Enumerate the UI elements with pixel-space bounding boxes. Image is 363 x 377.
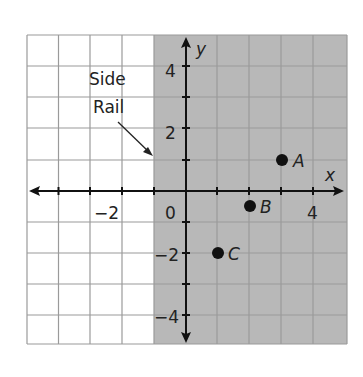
coordinate-plane: −2 0 4 4 2 −2 −4 y x A B C Side Rail <box>0 0 363 377</box>
y-tick-2: 2 <box>165 123 176 143</box>
point-a <box>276 154 288 166</box>
point-b-label: B <box>260 197 272 217</box>
arrow-icon <box>118 122 153 156</box>
y-axis-label: y <box>195 39 207 59</box>
y-tick-4: 4 <box>165 61 176 81</box>
x-axis-label: x <box>324 165 336 185</box>
point-a-label: A <box>292 151 305 171</box>
side-label: Side <box>89 69 126 89</box>
side-rail-region <box>154 35 347 344</box>
x-tick-0: 0 <box>165 203 176 223</box>
x-tick-4: 4 <box>307 203 318 223</box>
y-tick-neg2: −2 <box>154 245 179 265</box>
y-tick-neg4: −4 <box>154 307 179 327</box>
rail-label: Rail <box>93 97 124 117</box>
point-c-label: C <box>228 244 240 264</box>
x-tick-neg2: −2 <box>94 203 119 223</box>
point-c <box>212 247 224 259</box>
point-b <box>244 200 256 212</box>
